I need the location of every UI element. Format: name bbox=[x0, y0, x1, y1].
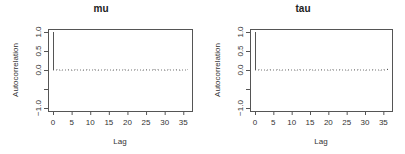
svg-text:0.5: 0.5 bbox=[236, 45, 245, 57]
svg-text:15: 15 bbox=[306, 118, 315, 127]
svg-text:5: 5 bbox=[271, 118, 276, 127]
svg-text:20: 20 bbox=[123, 118, 132, 127]
svg-text:−1.0: −1.0 bbox=[236, 100, 245, 116]
svg-text:−1.0: −1.0 bbox=[34, 100, 43, 116]
svg-text:30: 30 bbox=[160, 118, 169, 127]
acf-panel-mu: mu −1.00.00.51.005101520253035LagAutocor… bbox=[0, 0, 202, 154]
svg-text:1.0: 1.0 bbox=[34, 26, 43, 38]
svg-text:15: 15 bbox=[104, 118, 113, 127]
acf-plot-tau: −1.00.00.51.005101520253035LagAutocorrel… bbox=[202, 0, 404, 154]
svg-text:10: 10 bbox=[86, 118, 95, 127]
svg-text:30: 30 bbox=[361, 118, 370, 127]
svg-text:Autocorrelation: Autocorrelation bbox=[213, 43, 222, 97]
svg-text:35: 35 bbox=[179, 118, 188, 127]
svg-text:0: 0 bbox=[51, 118, 56, 127]
svg-text:Lag: Lag bbox=[314, 137, 327, 146]
svg-text:35: 35 bbox=[379, 118, 388, 127]
svg-text:Autocorrelation: Autocorrelation bbox=[11, 43, 20, 97]
svg-text:25: 25 bbox=[342, 118, 351, 127]
svg-text:0: 0 bbox=[253, 118, 258, 127]
svg-text:Lag: Lag bbox=[113, 137, 126, 146]
svg-text:25: 25 bbox=[142, 118, 151, 127]
svg-text:0.0: 0.0 bbox=[34, 64, 43, 76]
svg-text:1.0: 1.0 bbox=[236, 26, 245, 38]
acf-plot-mu: −1.00.00.51.005101520253035LagAutocorrel… bbox=[0, 0, 202, 154]
svg-text:10: 10 bbox=[287, 118, 296, 127]
acf-panel-tau: tau −1.00.00.51.005101520253035LagAutoco… bbox=[202, 0, 404, 154]
svg-text:0.0: 0.0 bbox=[236, 64, 245, 76]
svg-text:20: 20 bbox=[324, 118, 333, 127]
svg-text:5: 5 bbox=[69, 118, 74, 127]
svg-text:0.5: 0.5 bbox=[34, 45, 43, 57]
